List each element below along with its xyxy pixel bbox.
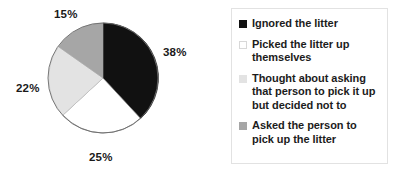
legend-swatch-white-icon	[239, 41, 247, 49]
pie-label-15-percent: 15%	[54, 9, 78, 21]
legend-swatch-medium-gray-icon	[239, 122, 247, 130]
legend-label-thought-about-asking: Thought about asking that person to pick…	[252, 72, 381, 113]
legend-swatch-light-gray-icon	[239, 75, 247, 83]
pie-label-22-percent: 22%	[16, 83, 40, 95]
pie-chart-plot-area: 38% 25% 22% 15%	[0, 0, 224, 174]
pie-chart-figure: 38% 25% 22% 15% Ignored the litter Picke…	[0, 0, 394, 174]
legend-item-ignored-the-litter: Ignored the litter	[239, 17, 381, 31]
pie-label-25-percent: 25%	[89, 152, 113, 164]
legend-item-picked-the-litter-up-themselves: Picked the litter up themselves	[239, 38, 381, 65]
legend-label-asked-the-person: Asked the person to pick up the litter	[252, 119, 381, 146]
legend-label-ignored-the-litter: Ignored the litter	[252, 17, 338, 31]
chart-legend: Ignored the litter Picked the litter up …	[231, 8, 388, 164]
pie-label-38-percent: 38%	[163, 47, 187, 59]
legend-swatch-black-icon	[239, 20, 247, 28]
legend-item-asked-the-person: Asked the person to pick up the litter	[239, 119, 381, 146]
legend-label-picked-the-litter-up-themselves: Picked the litter up themselves	[252, 38, 381, 65]
legend-item-thought-about-asking: Thought about asking that person to pick…	[239, 72, 381, 113]
